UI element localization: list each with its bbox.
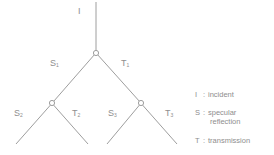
legend-item-incident: I:incident: [195, 90, 234, 99]
root-node: [93, 50, 98, 55]
label-s1-sub: 1: [56, 62, 59, 68]
label-s2: S2: [14, 108, 23, 120]
legend-key: I: [195, 90, 203, 99]
legend-text: specular: [208, 108, 236, 117]
label-t2-sub: 2: [78, 112, 81, 118]
label-incident-letter: I: [78, 6, 81, 16]
right-node: [138, 100, 143, 105]
label-s2-sub: 2: [20, 112, 23, 118]
legend-key: T: [195, 136, 203, 145]
label-incident: I: [78, 6, 81, 16]
legend-item-transmission: T:transmission: [195, 136, 250, 145]
label-t2: T2: [72, 108, 80, 120]
branch-t2: [54, 105, 89, 144]
label-t1: T1: [121, 58, 129, 70]
label-s1: S1: [50, 58, 59, 70]
legend-text: transmission: [208, 136, 250, 145]
branch-t1: [98, 55, 140, 101]
legend-key: S: [195, 108, 203, 117]
label-s3-sub: 3: [114, 112, 117, 118]
label-t3-sub: 3: [171, 112, 174, 118]
legend-item-specular: S:specular reflection: [195, 108, 240, 126]
tree-diagram: [0, 0, 274, 155]
label-t1-sub: 1: [127, 62, 130, 68]
branch-s1: [54, 55, 95, 101]
label-s3: S3: [108, 108, 117, 120]
legend-text-line2: reflection: [210, 117, 240, 126]
legend-text: incident: [208, 90, 234, 99]
label-t3: T3: [165, 108, 173, 120]
left-node: [49, 100, 54, 105]
